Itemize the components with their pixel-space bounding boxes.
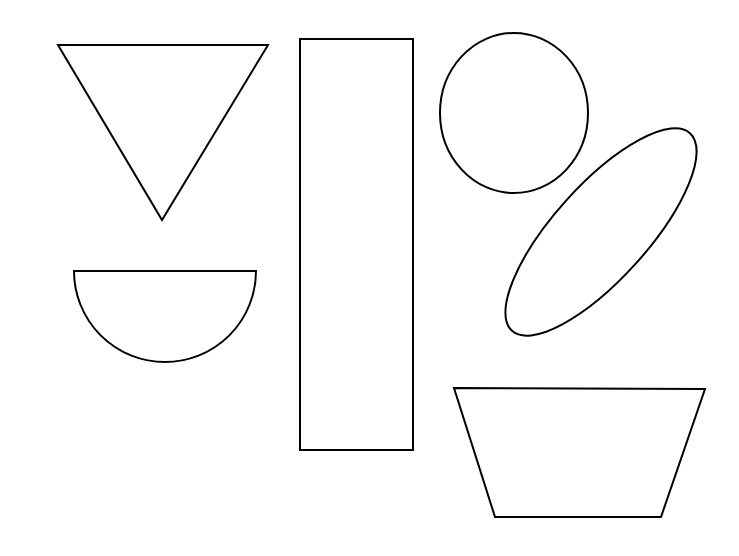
shapes-svg-root — [0, 0, 739, 556]
shape-canvas — [0, 0, 739, 556]
shape-trapezoid[interactable] — [454, 388, 705, 517]
shape-rectangle[interactable] — [300, 39, 413, 450]
shape-circle[interactable] — [440, 33, 588, 193]
